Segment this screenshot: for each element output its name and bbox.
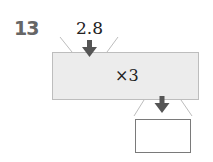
input-arrow-icon [82, 40, 97, 57]
output-arrow-icon [155, 96, 170, 113]
answer-box[interactable] [135, 119, 191, 153]
